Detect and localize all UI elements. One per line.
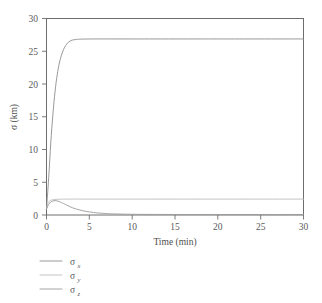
x-axis-title: Time (min) — [153, 237, 196, 248]
legend-label-sigma-z: σ — [70, 285, 75, 295]
x-tick-label-25: 25 — [256, 222, 266, 232]
y-tick-label-10: 10 — [29, 145, 39, 155]
x-tick-label-0: 0 — [44, 222, 49, 232]
x-tick-label-10: 10 — [127, 222, 137, 232]
chart-figure: 0 5 10 15 20 25 30 0 5 10 15 20 25 30 — [0, 0, 322, 303]
x-tick-label-20: 20 — [213, 222, 223, 232]
x-tick-label-30: 30 — [299, 222, 309, 232]
x-axis-ticks — [47, 215, 304, 220]
y-tick-label-5: 5 — [33, 178, 38, 188]
series-group — [47, 39, 304, 215]
y-tick-label-30: 30 — [29, 14, 39, 24]
y-axis-tick-labels: 0 5 10 15 20 25 30 — [29, 14, 39, 221]
y-axis-title: σ (km) — [9, 104, 20, 130]
legend-label-sigma-y: σ — [70, 271, 75, 281]
plot-frame — [47, 19, 304, 216]
chart-legend: σ x σ y σ z — [40, 257, 81, 297]
series-line-sigma-y — [47, 199, 304, 208]
y-tick-label-15: 15 — [29, 112, 39, 122]
y-tick-label-0: 0 — [33, 211, 38, 221]
x-tick-label-5: 5 — [87, 222, 92, 232]
y-tick-label-25: 25 — [29, 47, 39, 57]
y-axis-ticks — [42, 19, 47, 216]
series-line-sigma-z — [47, 201, 304, 215]
legend-sub-sigma-x: x — [77, 262, 81, 269]
x-tick-label-15: 15 — [170, 222, 180, 232]
x-axis-tick-labels: 0 5 10 15 20 25 30 — [44, 222, 308, 232]
y-tick-label-20: 20 — [29, 80, 39, 90]
legend-label-sigma-x: σ — [70, 257, 75, 267]
legend-sub-sigma-y: y — [77, 276, 81, 283]
series-line-sigma-x — [47, 39, 304, 209]
chart-svg: 0 5 10 15 20 25 30 0 5 10 15 20 25 30 — [0, 0, 322, 303]
legend-sub-sigma-z: z — [77, 290, 81, 297]
